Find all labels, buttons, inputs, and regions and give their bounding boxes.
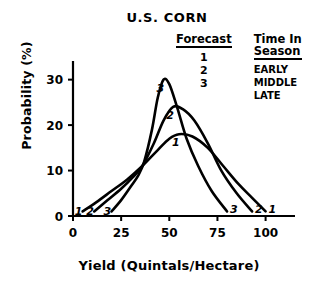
- curve-right-tail-label-3: 3: [230, 203, 238, 216]
- legend-header-season: Time In Season: [254, 33, 302, 60]
- curve-left-tail-label-2: 2: [86, 205, 94, 218]
- legend-forecast-value: 3: [176, 78, 232, 90]
- legend-season-value: LATE: [254, 90, 302, 102]
- legend-forecast-value: 1: [176, 52, 232, 64]
- legend-header-forecast: Forecast: [176, 33, 232, 48]
- curve-left-tail-label-1: 1: [75, 205, 83, 218]
- x-tick-label: 50: [161, 226, 178, 240]
- legend-forecast-values: 123: [176, 48, 232, 90]
- x-axis-title: Yield (Quintals/Hectare): [46, 258, 292, 273]
- curve-peak-label-2: 2: [166, 109, 174, 122]
- legend-forecast-value: 2: [176, 65, 232, 77]
- y-tick-label: 20: [46, 119, 63, 133]
- x-tick-label: 75: [209, 226, 226, 240]
- legend-season-values: EARLYMIDDLELATE: [254, 60, 302, 102]
- curve-peak-label-3: 3: [157, 82, 165, 95]
- legend-column-season: Time In Season EARLYMIDDLELATE: [254, 33, 302, 102]
- curve-2: [94, 106, 252, 211]
- y-tick-label: 0: [55, 210, 63, 224]
- y-tick-label: 10: [46, 164, 63, 178]
- x-tick-label: 0: [69, 226, 77, 240]
- y-tick-label: 30: [46, 73, 63, 87]
- legend-season-value: EARLY: [254, 64, 302, 76]
- legend-column-forecast: Forecast 123: [176, 33, 232, 102]
- curve-right-tail-label-2: 2: [255, 203, 263, 216]
- curve-left-tail-label-3: 3: [104, 205, 112, 218]
- x-tick-label: 100: [253, 226, 278, 240]
- curve-right-tail-label-1: 1: [269, 203, 277, 216]
- x-tick-label: 25: [113, 226, 130, 240]
- legend-season-value: MIDDLE: [254, 77, 302, 89]
- y-axis-title: Probability (%): [19, 26, 34, 166]
- curve-peak-label-1: 1: [172, 136, 180, 149]
- chart-figure: U.S. CORN 01020300255075100 111222333 Pr…: [0, 0, 334, 291]
- legend: Forecast 123 Time In Season EARLYMIDDLEL…: [176, 33, 302, 102]
